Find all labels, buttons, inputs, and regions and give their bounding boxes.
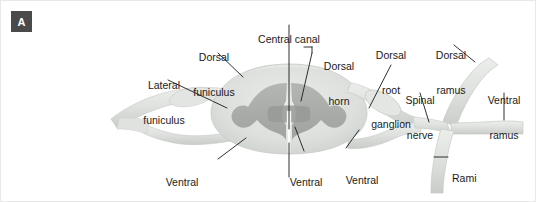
label-lateral-funiculus: Lateral funiculus (132, 57, 196, 149)
label-spinal-nerve: Spinal nerve (397, 72, 443, 164)
label-anterior-median-fissure: Anterior median fissure (219, 181, 359, 202)
label-ventral-funiculus-line-1: Ventral (150, 177, 214, 189)
label-spinal-nerve-line-2: nerve (397, 130, 443, 142)
label-rami-communicantes: Rami communicantes (452, 150, 536, 202)
label-dorsal-horn: Dorsal horn (317, 38, 361, 130)
label-ventral-ramus-line-1: Ventral (478, 95, 530, 107)
label-ventral-funiculus: Ventral funiculus (150, 154, 214, 202)
label-dorsal-horn-line-1: Dorsal (317, 61, 361, 73)
label-ventral-ramus-line-2: ramus (478, 130, 530, 142)
spinal-cord-figure: A (0, 0, 536, 202)
label-spinal-nerve-line-1: Spinal (397, 95, 443, 107)
label-lateral-funiculus-line-2: funiculus (132, 115, 196, 127)
label-dorsal-root-ganglion-line-1: Dorsal (361, 50, 421, 62)
label-lateral-funiculus-line-1: Lateral (132, 80, 196, 92)
label-rami-communicantes-line-1: Rami (452, 173, 536, 185)
label-dorsal-horn-line-2: horn (317, 96, 361, 108)
label-dorsal-ramus-line-1: Dorsal (425, 50, 477, 62)
